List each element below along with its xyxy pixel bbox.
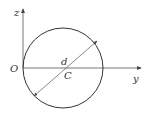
diameter-line [34,41,97,96]
circle-section-diagram: z y O d C [0,0,147,119]
diameter-label: d [61,56,67,67]
z-axis-label: z [13,7,20,18]
centroid-label: C [64,70,72,81]
y-axis-label: y [132,73,139,84]
origin-label: O [10,63,18,74]
